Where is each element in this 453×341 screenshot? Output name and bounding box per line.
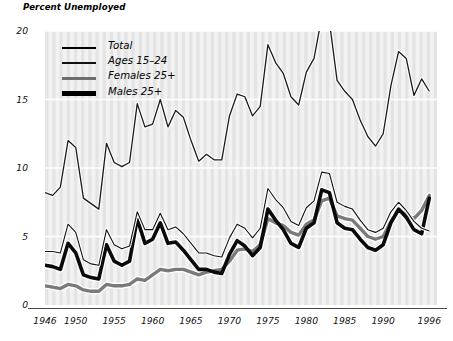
unemployment-line-chart [0,0,453,341]
x-tick-1985: 1985 [325,315,365,326]
x-tick-1965: 1965 [171,315,211,326]
legend-swatch-line [62,91,96,96]
x-tick-1996: 1996 [409,315,449,326]
legend-label: Females 25+ [108,70,175,81]
y-tick-15: 15 [2,94,28,105]
x-tick-1990: 1990 [363,315,403,326]
legend-swatch-line [62,77,96,81]
x-tick-1970: 1970 [209,315,249,326]
x-tick-1980: 1980 [286,315,326,326]
x-tick-1950: 1950 [56,315,96,326]
legend-label: Males 25+ [108,86,162,97]
y-tick-5: 5 [2,231,28,242]
x-tick-1960: 1960 [133,315,173,326]
chart-figure: Percent Unemployed 05101520 194619501955… [0,0,453,341]
y-tick-0: 0 [2,299,28,310]
x-tick-1975: 1975 [248,315,288,326]
y-tick-20: 20 [2,25,28,36]
x-tick-1955: 1955 [94,315,134,326]
legend-label: Ages 15–24 [108,55,167,66]
legend-swatch-line [62,47,96,49]
legend-swatch-line [62,62,96,64]
legend-label: Total [108,40,132,51]
y-tick-10: 10 [2,162,28,173]
